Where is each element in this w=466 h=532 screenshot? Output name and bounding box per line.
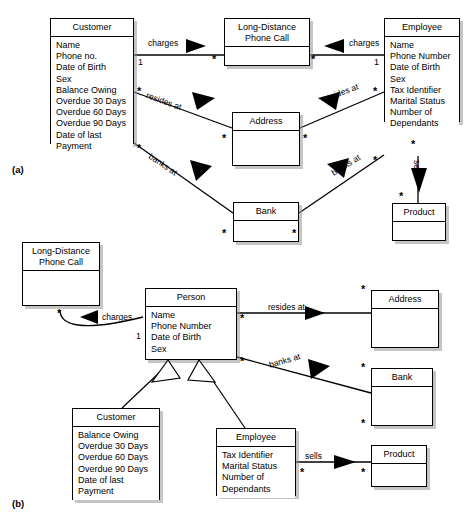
assoc-label-charges-customer: charges: [148, 39, 178, 48]
multiplicity-employee-sells-b: *: [300, 467, 304, 478]
navigation-arrow-icon: [80, 310, 98, 324]
uml-diagram-canvas: Customer Name Phone no. Date of Birth Se…: [0, 0, 466, 532]
navigation-arrow-icon: [190, 160, 212, 181]
multiplicity-person-banks-b: *: [240, 356, 244, 367]
navigation-arrow-icon: [192, 92, 215, 110]
assoc-label-sells-employee: sells: [412, 160, 421, 177]
multiplicity-phonecall-charges-right: *: [311, 54, 315, 65]
arrowheads-layer: [0, 0, 466, 532]
assoc-label-charges-employee: charges: [349, 39, 379, 48]
multiplicity-product-sells-b: *: [361, 467, 365, 478]
multiplicity-employee-charges: 1: [374, 57, 379, 68]
navigation-arrow-icon: [305, 306, 325, 320]
multiplicity-bank-banks-b: *: [361, 362, 365, 373]
assoc-label-charges-b: charges: [102, 313, 132, 322]
assoc-label-resides-at-b: resides at: [268, 303, 305, 312]
navigation-arrow-icon: [186, 39, 206, 53]
multiplicity-bank-from-employee: *: [292, 228, 296, 239]
figure-part-a-label: (a): [12, 164, 24, 175]
multiplicity-bank-bottom-b: *: [361, 418, 365, 429]
navigation-arrow-icon: [308, 359, 330, 379]
multiplicity-person-charges-b: 1: [136, 331, 141, 342]
generalization-triangle-employee: [188, 360, 215, 382]
multiplicity-phonecall-charges-left: *: [212, 54, 216, 65]
multiplicity-customer-resides: *: [137, 86, 141, 97]
figure-part-b-label: (b): [12, 498, 24, 509]
multiplicity-customer-charges: 1: [138, 57, 143, 68]
multiplicity-address-resides-b: *: [361, 284, 365, 295]
multiplicity-bank-from-customer: *: [222, 228, 226, 239]
multiplicity-customer-banks: *: [137, 143, 141, 154]
navigation-arrow-icon: [334, 455, 356, 469]
multiplicity-address-from-employee: *: [303, 133, 307, 144]
generalization-triangle-customer: [152, 360, 180, 382]
multiplicity-product-from-employee: *: [399, 191, 403, 202]
navigation-arrow-icon: [324, 39, 344, 53]
multiplicity-employee-sells: *: [411, 139, 415, 150]
multiplicity-employee-banks: *: [373, 155, 377, 166]
assoc-label-sells-b: sells: [305, 452, 322, 461]
multiplicity-person-resides-b: *: [240, 313, 244, 324]
multiplicity-phonecall-charges-b: *: [57, 308, 61, 319]
multiplicity-address-from-customer: *: [222, 133, 226, 144]
multiplicity-employee-resides: *: [373, 86, 377, 97]
